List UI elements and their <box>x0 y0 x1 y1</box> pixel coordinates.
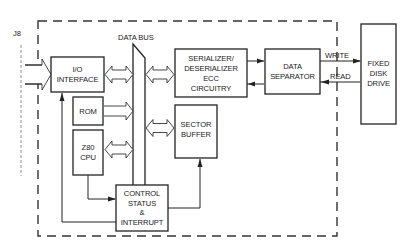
svg-text:CONTROL: CONTROL <box>124 189 160 198</box>
cpu-bus-arrow <box>105 141 133 158</box>
arrowhead-icon <box>257 59 264 64</box>
arrowhead-icon <box>353 59 361 64</box>
cpu-to-control-line <box>88 175 115 199</box>
svg-text:DRIVE: DRIVE <box>367 79 390 88</box>
arrowhead-icon <box>60 93 65 101</box>
svg-text:I/O: I/O <box>73 65 83 74</box>
svg-text:ECC: ECC <box>203 74 219 83</box>
arrowhead-icon <box>198 159 203 167</box>
write-signal-label: WRITE <box>325 51 349 60</box>
svg-text:INTERFACE: INTERFACE <box>57 75 99 84</box>
control-to-sector-buffer-line <box>168 159 200 208</box>
serializer-block: SERIALIZER/ DESERIALIZER ECC CIRCUITRY <box>175 49 247 97</box>
arrowhead-icon <box>248 82 255 87</box>
svg-text:SEPARATOR: SEPARATOR <box>270 72 315 81</box>
rom-bus-arrow <box>104 102 133 120</box>
svg-text:FIXED: FIXED <box>368 59 390 68</box>
svg-text:DISK: DISK <box>370 69 387 78</box>
svg-text:BUFFER: BUFFER <box>181 130 211 139</box>
data-bus-label: DATA BUS <box>118 33 154 42</box>
svg-text:CIRCUITRY: CIRCUITRY <box>191 84 231 93</box>
io-bus-arrow <box>105 66 133 83</box>
svg-text:SERIALIZER/: SERIALIZER/ <box>188 54 234 63</box>
svg-text:STATUS: STATUS <box>128 199 156 208</box>
disk-controller-diagram: J8 I/O INTERFACE ROM Z80 CPU DATA BUS SE… <box>0 0 417 250</box>
svg-text:SECTOR: SECTOR <box>181 120 213 129</box>
connector-label-j8: J8 <box>13 29 21 38</box>
svg-text:DATA: DATA <box>283 62 303 71</box>
control-status-interrupt-block: CONTROL STATUS & INTERRUPT <box>116 185 168 231</box>
bus-serializer-arrow <box>146 66 174 83</box>
arrowhead-icon <box>108 197 116 202</box>
sector-buffer-block: SECTOR BUFFER <box>175 105 217 158</box>
svg-text:ROM: ROM <box>79 107 96 116</box>
arrowhead-icon <box>321 80 329 85</box>
cpu-block: Z80 CPU <box>73 130 103 175</box>
bus-sector-buffer-arrow <box>146 120 174 137</box>
svg-text:&: & <box>140 208 145 217</box>
data-separator-block: DATA SEPARATOR <box>265 49 320 94</box>
read-signal-label: READ <box>330 72 351 81</box>
io-interface-block: I/O INTERFACE <box>51 57 104 92</box>
svg-text:INTERRUPT: INTERRUPT <box>121 218 164 227</box>
rom-block: ROM <box>73 97 103 125</box>
svg-text:Z80: Z80 <box>82 143 95 152</box>
svg-text:DESERIALIZER: DESERIALIZER <box>184 64 238 73</box>
svg-text:CPU: CPU <box>80 153 96 162</box>
fixed-disk-drive-block: FIXED DISK DRIVE <box>361 24 396 124</box>
